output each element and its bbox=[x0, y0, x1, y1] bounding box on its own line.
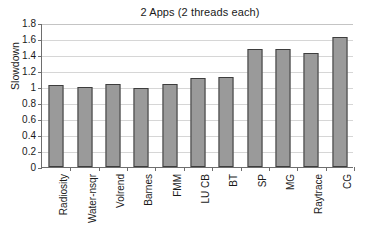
bar[interactable] bbox=[162, 84, 177, 167]
y-tick-label: 0 bbox=[0, 163, 36, 173]
bar-slot bbox=[184, 24, 212, 167]
y-tick-label: 0.4 bbox=[0, 131, 36, 141]
bar-slot bbox=[127, 24, 155, 167]
x-tick-mark bbox=[184, 167, 185, 171]
bar[interactable] bbox=[332, 37, 347, 167]
y-tick-label: 0.2 bbox=[0, 147, 36, 157]
y-tick-label: 1.2 bbox=[0, 67, 36, 77]
y-tick-label: 0.6 bbox=[0, 115, 36, 125]
x-tick-mark bbox=[99, 167, 100, 171]
x-tick-mark bbox=[354, 167, 355, 171]
bar-slot bbox=[99, 24, 127, 167]
bar-slot bbox=[70, 24, 98, 167]
bar-slot bbox=[269, 24, 297, 167]
y-tick-label: 1.6 bbox=[0, 35, 36, 45]
x-tick-mark bbox=[326, 167, 327, 171]
bar-series bbox=[42, 24, 353, 167]
x-tick-label: CG bbox=[343, 174, 353, 189]
bar-slot bbox=[241, 24, 269, 167]
x-tick-label: Raytrace bbox=[314, 174, 324, 214]
x-tick-label: MG bbox=[286, 174, 296, 190]
x-tick-mark bbox=[297, 167, 298, 171]
y-tick-label: 1.8 bbox=[0, 19, 36, 29]
x-tick-mark bbox=[155, 167, 156, 171]
x-tick-mark bbox=[241, 167, 242, 171]
bar[interactable] bbox=[49, 85, 64, 167]
x-tick-label: Water-nsqr bbox=[88, 174, 98, 223]
x-tick-label: BT bbox=[229, 174, 239, 187]
x-tick-label: SP bbox=[258, 174, 268, 187]
bar-slot bbox=[297, 24, 325, 167]
y-tick-label: 1 bbox=[0, 83, 36, 93]
x-tick-label: Barnes bbox=[144, 174, 154, 206]
bar[interactable] bbox=[276, 49, 291, 167]
plot-area: 1.81.61.41.210.80.60.40.20 bbox=[41, 24, 353, 168]
x-tick-label: Radiosity bbox=[59, 174, 69, 215]
x-tick-mark bbox=[269, 167, 270, 171]
bar-slot bbox=[42, 24, 70, 167]
bar-chart: 2 Apps (2 threads each) Slowdown 1.81.61… bbox=[0, 0, 365, 235]
bar[interactable] bbox=[247, 49, 262, 167]
x-tick-label: Volrend bbox=[116, 174, 126, 208]
x-tick-mark bbox=[127, 167, 128, 171]
y-tick-label: 1.4 bbox=[0, 51, 36, 61]
y-tick-mark bbox=[38, 168, 42, 169]
x-tick-mark bbox=[212, 167, 213, 171]
bar-slot bbox=[326, 24, 354, 167]
bar[interactable] bbox=[190, 78, 205, 167]
bar-slot bbox=[212, 24, 240, 167]
x-tick-label: LU CB bbox=[201, 174, 211, 203]
bar[interactable] bbox=[304, 53, 319, 167]
x-tick-label: FMM bbox=[173, 174, 183, 197]
x-tick-mark bbox=[70, 167, 71, 171]
y-tick-label: 0.8 bbox=[0, 99, 36, 109]
bar[interactable] bbox=[105, 84, 120, 167]
chart-title: 2 Apps (2 threads each) bbox=[40, 6, 360, 19]
bar[interactable] bbox=[134, 88, 149, 167]
bar-slot bbox=[155, 24, 183, 167]
bar[interactable] bbox=[77, 87, 92, 167]
bar[interactable] bbox=[219, 77, 234, 167]
